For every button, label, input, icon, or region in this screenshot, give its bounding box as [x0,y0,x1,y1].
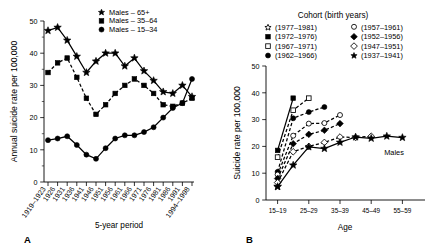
square-filled-icon [99,19,104,24]
circle-open-marker [306,121,311,126]
star-filled-marker [54,24,61,31]
star-filled-marker [44,27,51,34]
y-tick-label: 50 [30,17,38,26]
circle-filled-marker [306,110,311,115]
y-tick-label: 0 [256,196,260,205]
y-tick-label: 0 [34,178,38,187]
legend-item-1: Males – 35–64 [99,16,157,25]
circle-filled-marker [65,134,70,139]
star-filled-marker [321,145,328,152]
circle-filled-icon [266,53,271,58]
panel-b-x-axis-title: Age [338,223,353,232]
star-filled-marker [383,132,390,139]
legend-label-1: (1972–1976) [275,32,317,41]
panel-b-legend-title: Cohort (birth years) [298,11,369,20]
circle-filled-marker [170,105,175,110]
legend-item-1: (1972–1976) [266,32,317,41]
series-line [274,120,343,182]
circle-open-marker [291,133,296,138]
panel-a-y-axis: 50 40 30 20 10 0 Annual suicide rate per… [9,17,44,187]
panel-a-y-axis-title: Annual suicide rate per 100,000 [9,41,19,163]
circle-filled-marker [113,136,118,141]
y-tick-label: 20 [30,113,38,122]
star-filled-icon [351,53,357,59]
panel-a-series-group [44,24,195,162]
circle-filled-marker [180,101,185,106]
star-filled-marker [73,53,80,60]
x-tick-label: 1919–1923 [20,185,48,220]
square-open-marker [275,155,280,160]
x-tick-label: 55–59 [394,207,412,214]
circle-filled-marker [190,76,195,81]
circle-filled-marker [122,133,127,138]
panel-b-x-axis: 15–19 25–29 35–39 45–49 55–59 Age [266,200,425,232]
legend-item-3: (1962–1966) [266,51,317,60]
legend-item-6: (1947–1951) [351,42,403,51]
legend-label-4: (1957–1961) [361,23,403,32]
star-filled-marker [399,134,406,141]
square-open-icon [266,44,271,49]
legend-label-0: Males – 65+ [109,8,149,17]
square-open-marker [291,108,296,113]
series-line [274,133,374,186]
diamond-filled-marker [306,131,313,138]
y-tick-label: 40 [252,89,260,98]
square-filled-marker [161,102,166,107]
star-open-icon [265,24,271,30]
square-filled-icon [266,34,271,39]
square-filled-marker [84,96,89,101]
y-tick-label: 30 [30,81,38,90]
circle-filled-marker [55,136,60,141]
diamond-filled-marker [290,140,297,147]
star-filled-marker [111,49,118,56]
x-tick-label: 25–29 [300,207,318,214]
panel-b: Cohort (birth years) (1977–1981) (1972–1… [218,0,436,249]
panel-b-letter: B [246,234,253,245]
square-filled-marker [113,91,118,96]
y-tick-label: 50 [252,62,260,71]
square-filled-marker [65,56,70,61]
square-filled-marker [46,70,51,75]
circle-filled-marker [84,152,89,157]
series-line [44,24,195,100]
panel-b-annotation: Males [384,148,404,157]
circle-filled-marker [46,138,51,143]
legend-label-6: (1947–1951) [361,42,403,51]
circle-filled-marker [74,142,79,147]
legend-item-2: Males – 15–34 [99,25,157,34]
panel-a: Males – 65+ Males – 35–64 Males – 15–34 [0,0,218,249]
star-filled-icon [98,9,104,15]
legend-item-0: Males – 65+ [98,8,149,17]
legend-item-5: (1952–1956) [351,32,403,41]
legend-item-4: (1957–1961) [352,23,403,32]
panel-a-chart: Males – 65+ Males – 35–64 Males – 15–34 [0,0,218,249]
circle-filled-marker [151,125,156,130]
square-filled-marker [55,61,60,66]
square-filled-marker [142,83,147,88]
circle-filled-marker [322,105,327,110]
panel-b-series-group [274,96,406,190]
circle-filled-marker [142,130,147,135]
circle-filled-icon [99,27,104,32]
legend-label-0: (1977–1981) [275,23,317,32]
square-filled-marker [151,91,156,96]
circle-open-marker [338,113,343,118]
diamond-filled-marker [321,127,328,134]
legend-label-2: (1967–1971) [275,42,317,51]
panel-b-y-axis-title: Suicide rate per 100,000 [232,86,242,180]
legend-label-7: (1937–1941) [361,51,403,60]
panel-a-x-axis-title: 5-year period [95,221,144,230]
square-filled-marker [103,102,108,107]
figure-root: Males – 65+ Males – 35–64 Males – 15–34 [0,0,436,249]
circle-filled-marker [291,116,296,121]
square-filled-marker [291,96,296,101]
legend-item-7: (1937–1941) [351,51,403,60]
x-tick-label: 15–19 [269,207,287,214]
legend-item-0: (1977–1981) [265,23,317,32]
y-tick-label: 10 [30,146,38,155]
square-filled-marker [132,77,137,82]
panel-a-legend: Males – 65+ Males – 35–64 Males – 15–34 [98,8,157,35]
y-tick-label: 40 [30,49,38,58]
legend-label-3: (1962–1966) [275,51,317,60]
circle-open-marker [322,121,327,126]
